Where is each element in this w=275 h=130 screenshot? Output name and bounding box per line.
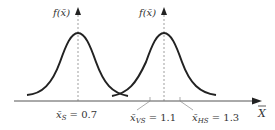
distribution-diagram: f(x̄) f(x̄) x̄S = 0.7 x̄VS = 1.1 x̄HS = … (0, 0, 275, 130)
left-distribution-curve (27, 33, 128, 96)
right-y-axis-label: f(x̄) (138, 7, 156, 18)
x-axis-arrow-icon (252, 98, 262, 105)
right-y-axis-arrow-icon (161, 7, 167, 15)
xvs-label: x̄VS = 1.1 (130, 112, 176, 125)
xvs-leader (137, 101, 150, 110)
x-axis-label: X (257, 107, 267, 120)
xhs-label: x̄HS = 1.3 (192, 112, 239, 125)
left-y-axis-label: f(x̄) (52, 7, 70, 18)
xhs-leader (180, 101, 193, 110)
xs-label: x̄S = 0.7 (56, 109, 97, 122)
left-y-axis-arrow-icon (75, 7, 81, 15)
